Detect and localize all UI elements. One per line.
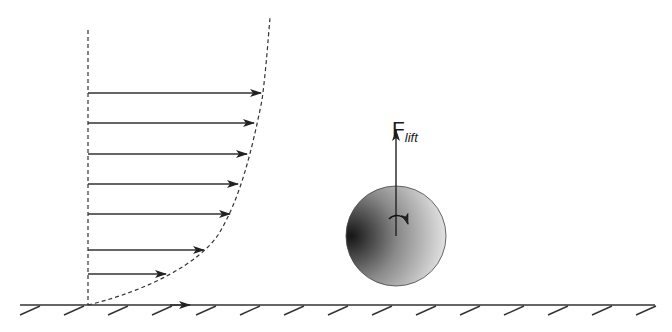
diagram-svg <box>0 0 672 332</box>
wall-hatch <box>284 306 304 315</box>
wall-hatch <box>504 306 524 315</box>
wall-hatch <box>196 306 216 315</box>
wall-hatch <box>460 306 480 315</box>
velocity-arrows <box>88 93 261 274</box>
wall-hatch <box>240 306 260 315</box>
wall-hatch <box>108 306 128 315</box>
wall-hatch <box>152 306 172 315</box>
wall-hatch <box>636 306 656 315</box>
wall-hatch <box>20 306 40 315</box>
lift-force-label: Flift <box>392 117 418 145</box>
wall-hatch <box>328 306 348 315</box>
wall-hatch <box>592 306 612 315</box>
wall-hatch <box>548 306 568 315</box>
wall <box>20 305 656 315</box>
wall-hatch <box>372 306 392 315</box>
wall-hatch <box>64 306 84 315</box>
wall-hatch <box>416 306 436 315</box>
velocity-profile-curve <box>88 18 270 305</box>
diagram-canvas: Flift <box>0 0 672 332</box>
